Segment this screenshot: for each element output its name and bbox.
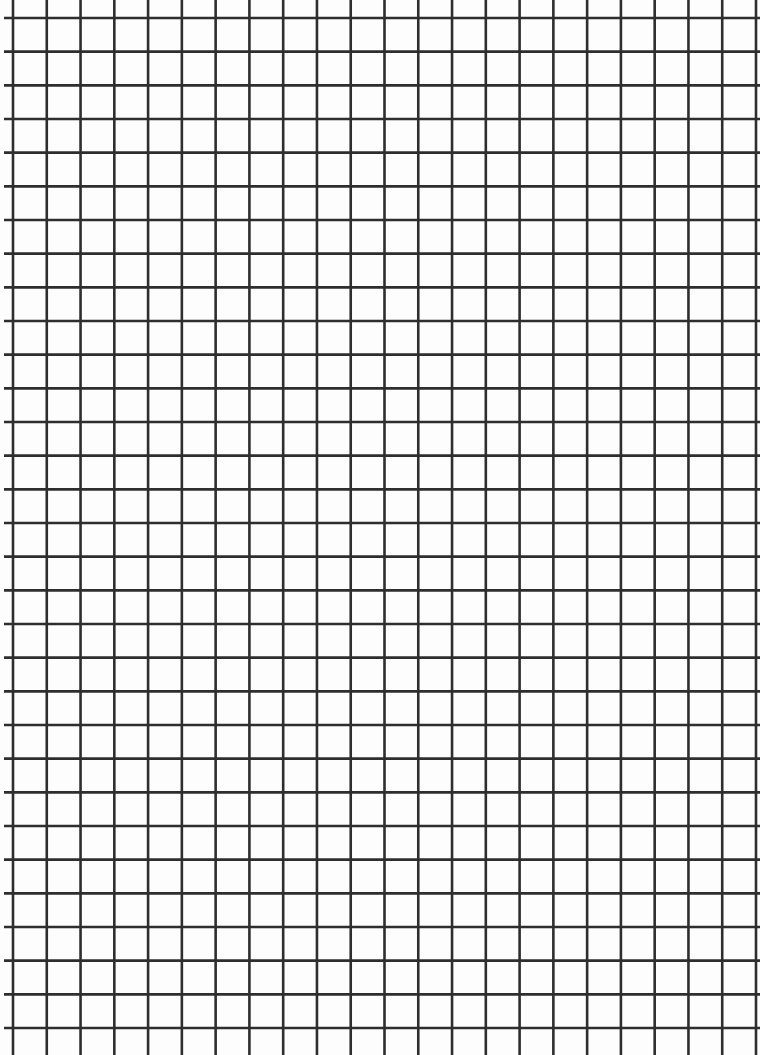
horizontal-grid-lines xyxy=(4,18,760,1028)
vertical-grid-lines xyxy=(13,0,756,1055)
grid-lines xyxy=(0,0,760,1055)
graph-paper-sheet xyxy=(0,0,760,1055)
